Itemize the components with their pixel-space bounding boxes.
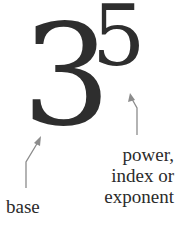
exponent-label-line: exponent (64, 186, 174, 207)
exponent-label: power, index or exponent (64, 144, 174, 207)
base-label: base (6, 196, 40, 217)
exponent-label-line: power, (64, 144, 174, 165)
exponent-label-line: index or (64, 165, 174, 186)
exponent-arrow-icon (128, 93, 137, 135)
base-arrow-icon (26, 136, 41, 188)
